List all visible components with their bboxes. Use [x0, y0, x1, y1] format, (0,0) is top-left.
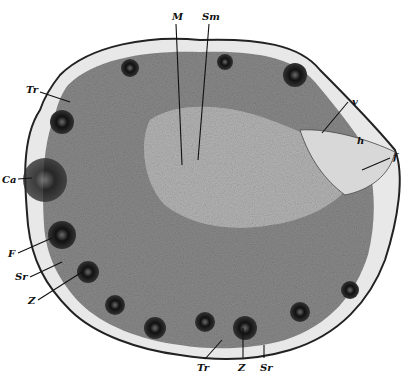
label-M: M: [172, 12, 183, 22]
label-v: v: [352, 97, 358, 107]
label-h: h: [357, 136, 364, 146]
label-F: F: [8, 249, 15, 259]
label-Sr-bottom: Sr: [260, 363, 273, 373]
tissue-section-illustration: [0, 0, 405, 383]
label-Z-left: Z: [28, 296, 35, 306]
label-Sm: Sm: [202, 12, 220, 22]
label-Tr-bottom: Tr: [197, 363, 209, 373]
label-Z-bottom: Z: [238, 363, 245, 373]
figure-canvas: M Sm Tr v h f Ca F Sr Z Tr Z Sr: [0, 0, 405, 383]
label-Sr-left: Sr: [15, 272, 28, 282]
label-f: f: [393, 152, 397, 162]
label-Ca: Ca: [2, 175, 16, 185]
label-Tr-top: Tr: [26, 85, 38, 95]
